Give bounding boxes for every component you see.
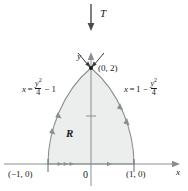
- right-eq-fraction: y2 4: [149, 80, 158, 97]
- left-eq-trailing: − 1: [44, 84, 56, 94]
- right-eq-equals: =: [130, 84, 135, 94]
- right-intercept-label: (1, 0): [126, 170, 146, 179]
- right-eq-denominator: 4: [151, 88, 157, 97]
- x-axis-label: x: [176, 168, 180, 177]
- left-eq-denominator: 4: [35, 88, 41, 97]
- right-eq-leading: 1 −: [136, 84, 148, 94]
- transformation-arrow-T: [88, 4, 95, 31]
- right-eq-lhs: x: [124, 84, 128, 94]
- y-axis-label: y: [77, 52, 81, 61]
- transformation-label-T: T: [100, 8, 106, 19]
- left-intercept-label: (−1, 0): [8, 170, 33, 179]
- right-eq-numerator: y2: [149, 80, 158, 88]
- left-eq-lhs: x: [22, 84, 26, 94]
- left-curve-equation: x = y2 4 − 1: [22, 80, 56, 97]
- left-eq-numerator: y2: [34, 80, 43, 88]
- right-curve-equation: x = 1 − y2 4: [124, 80, 158, 97]
- vertex-point-label: (0, 2): [98, 64, 118, 73]
- region-label-R: R: [66, 128, 73, 139]
- left-eq-equals: =: [28, 84, 33, 94]
- left-eq-fraction: y2 4: [34, 80, 43, 97]
- origin-label: 0: [83, 170, 88, 180]
